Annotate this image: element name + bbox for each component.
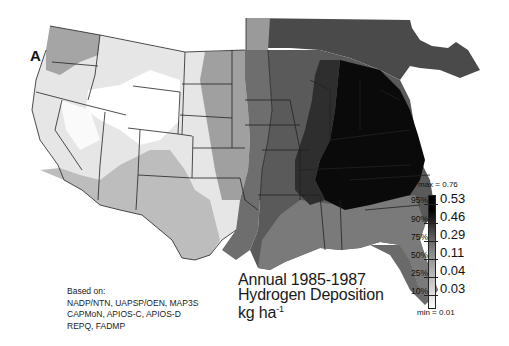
legend-tick <box>424 259 438 260</box>
title-line-2: Hydrogen Deposition <box>238 287 384 302</box>
sources-line: CAPMoN, APIOS-C, APIOS-D <box>67 309 198 321</box>
title-line-1: Annual 1985-1987 <box>238 272 384 287</box>
legend-value: 0.46 <box>440 209 465 224</box>
units-exponent: -1 <box>276 304 284 314</box>
region-canada-west <box>246 18 270 50</box>
legend-tick <box>424 295 438 296</box>
sources-line: NADP/NTN, UAPSP/OEN, MAP3S <box>67 298 198 310</box>
title-units: kg ha-1 <box>238 302 384 320</box>
legend-max-label: max = 0.76 <box>418 180 458 189</box>
legend-color-bar <box>428 195 436 309</box>
legend-min-label: min = 0.01 <box>417 308 455 317</box>
legend-tick <box>424 204 438 205</box>
map-title: Annual 1985-1987 Hydrogen Deposition kg … <box>238 272 384 320</box>
legend-value: 0.53 <box>440 191 465 206</box>
legend-value: 0.03 <box>440 281 465 296</box>
sources-line: REPQ, FADMP <box>67 321 198 333</box>
legend-tick <box>424 223 438 224</box>
data-sources: Based on: NADP/NTN, UAPSP/OEN, MAP3S CAP… <box>67 286 198 332</box>
panel-label: A <box>30 47 41 64</box>
units-base: kg ha <box>238 304 276 321</box>
legend-tick <box>424 277 438 278</box>
legend-value: 0.04 <box>440 263 465 278</box>
sources-heading: Based on: <box>67 286 198 298</box>
legend-value: 0.29 <box>440 227 465 242</box>
legend-tick <box>424 241 438 242</box>
legend-value: 0.11 <box>440 245 464 260</box>
legend: max = 0.76 95% 0.53 90% 0.46 75% 0.29 50… <box>400 180 509 346</box>
